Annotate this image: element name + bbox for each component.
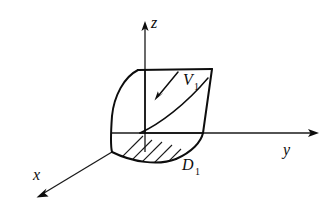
x-axis-label: x — [32, 166, 40, 183]
solid-top-edge — [138, 69, 212, 70]
solid-left-curved-edge — [111, 70, 138, 152]
labels-group: z y x V 1 D 1 — [32, 14, 291, 183]
axes-group — [37, 21, 320, 198]
volume-pointer-shaft — [159, 72, 178, 95]
x-axis — [37, 152, 113, 198]
volume-label: V 1 — [183, 71, 199, 92]
z-axis-label: z — [150, 14, 158, 31]
figure-container: z y x V 1 D 1 — [0, 0, 331, 214]
solid-base-curve — [112, 152, 176, 163]
x-axis-arrowhead — [37, 188, 49, 197]
region-label: D 1 — [181, 156, 200, 177]
region-label-subscript: 1 — [195, 166, 200, 177]
coordinate-diagram-svg: z y x V 1 D 1 — [0, 0, 331, 214]
volume-label-subscript: 1 — [194, 81, 199, 92]
x-axis-line — [44, 152, 112, 193]
region-label-symbol: D — [181, 156, 194, 173]
volume-pointer-arrow — [155, 72, 179, 101]
y-axis-label: y — [281, 141, 291, 159]
